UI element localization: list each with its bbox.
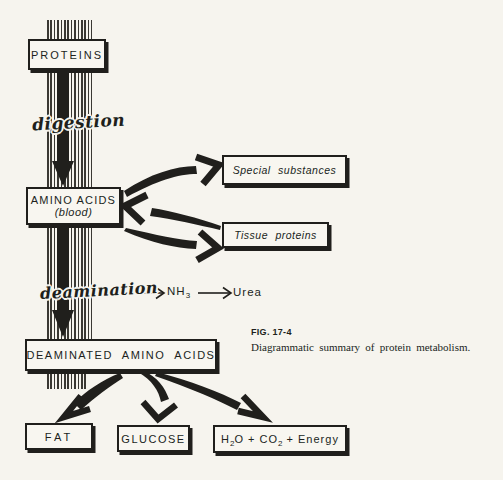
energy-plus-energy: + Energy [287,433,339,445]
node-tissue-proteins: Tissue proteins [222,222,329,248]
deaminated-amino-acids-label: DEAMINATED AMINO ACIDS [27,349,216,361]
deaminated-to-energy-arrow-body [155,372,241,410]
energy-h-subscript: 2 [230,439,234,448]
amino-to-tissue-arrowhead [197,232,218,260]
deaminated-to-energy-arrowhead [238,396,263,417]
deamination-arrow [52,225,74,337]
node-special-substances: Special substances [222,155,347,185]
node-proteins: PROTEINS [28,39,106,70]
energy-co-subscript: 2 [278,439,282,448]
nh3-subscript: 3 [186,291,190,300]
figure-17-4-diagram: PROTEINS AMINO ACIDS (blood) Special sub… [0,0,503,480]
figure-number: FIG. 17-4 [251,327,501,337]
proteins-label: PROTEINS [31,49,103,61]
energy-o-plus-co: O + CO [235,433,279,445]
amino-acids-blood-note: (blood) [55,206,93,218]
node-amino-acids: AMINO ACIDS (blood) [26,187,121,225]
amino-to-tissue-arrow-body [124,228,197,249]
fat-label: FAT [45,431,73,443]
urea-label: Urea [233,286,262,298]
energy-formula: H2O + CO2+ Energy [221,433,339,445]
amino-to-special-arrowhead [196,157,219,184]
tissue-proteins-label: Tissue proteins [234,229,317,241]
figure-caption-text: Diagrammatic summary of protein metaboli… [251,341,501,353]
node-glucose: GLUCOSE [117,425,190,452]
amino-acids-label: AMINO ACIDS [31,194,116,206]
tissue-to-amino-arrowhead [125,195,147,223]
deaminated-to-glucose-arrowhead [143,402,176,419]
energy-h: H [221,433,230,445]
node-fat: FAT [25,423,93,450]
node-deaminated-amino-acids: DEAMINATED AMINO ACIDS [25,339,217,371]
deaminated-to-fat-arrow-body [74,373,123,410]
figure-caption: FIG. 17-4 Diagrammatic summary of protei… [251,327,501,353]
special-substances-label: Special substances [233,164,336,176]
glucose-label: GLUCOSE [121,433,185,445]
amino-to-special-arrow-body [124,166,197,197]
tissue-to-amino-arrow-body [150,208,221,230]
nh3-label: NH3 [167,285,190,297]
node-energy: H2O + CO2+ Energy [213,425,347,453]
nh3-base: NH [167,285,186,297]
